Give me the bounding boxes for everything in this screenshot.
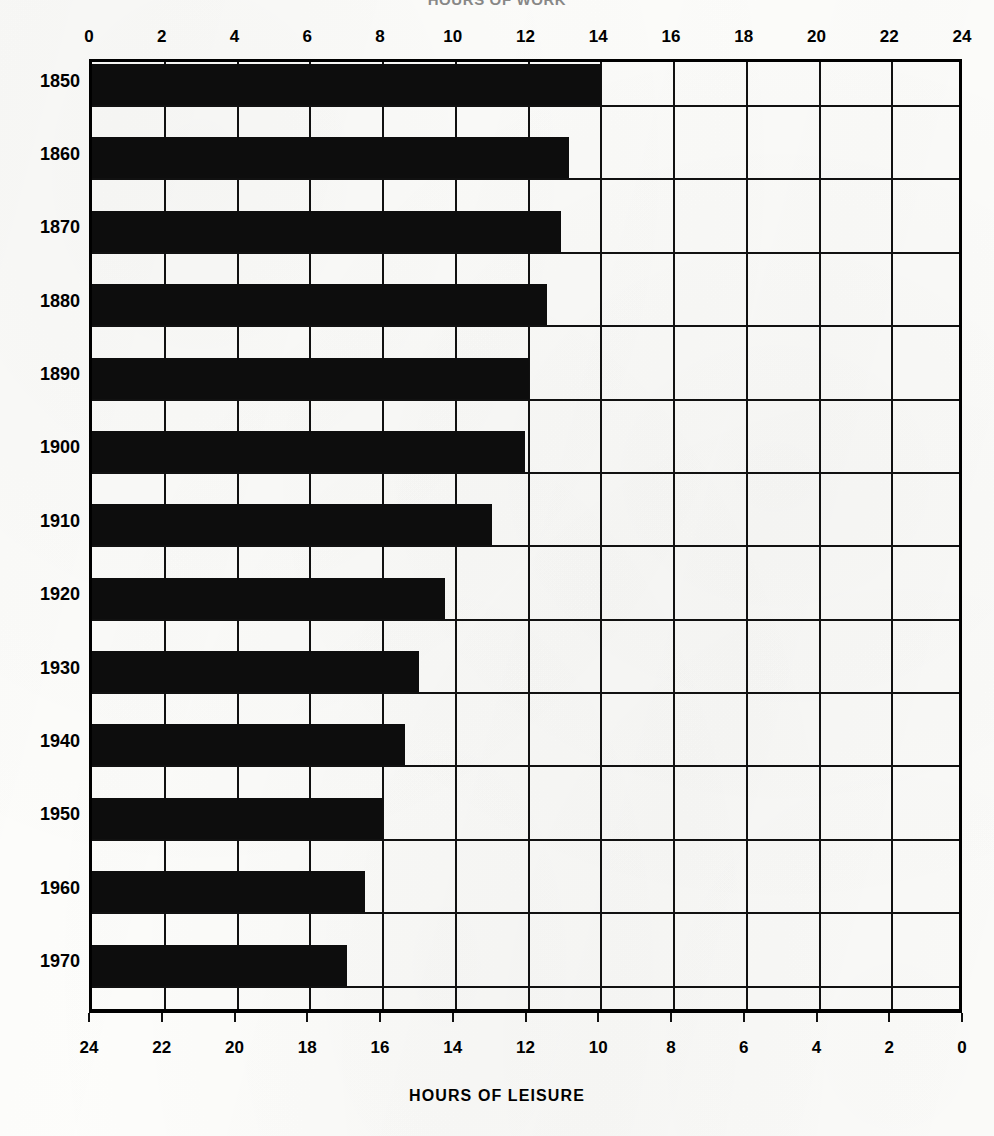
chart-root: HOURS OF WORK HOURS OF LEISURE 185018601… (0, 0, 994, 1136)
year-label-1880: 1880 (2, 291, 80, 312)
bottom-tick-2: 2 (867, 1038, 911, 1058)
bottom-tickmark-0 (961, 1013, 963, 1022)
top-tick-12: 12 (504, 27, 548, 47)
top-tick-6: 6 (285, 27, 329, 47)
bar-1880 (92, 284, 547, 325)
row-separator-1850 (92, 105, 959, 107)
gridline-18 (746, 62, 748, 1009)
gridline-16 (673, 62, 675, 1009)
top-tick-16: 16 (649, 27, 693, 47)
bottom-tickmark-4 (816, 1013, 818, 1022)
bottom-tickmark-12 (525, 1013, 527, 1022)
year-label-1870: 1870 (2, 217, 80, 238)
year-label-1950: 1950 (2, 804, 80, 825)
bottom-tickmark-18 (306, 1013, 308, 1022)
bottom-tick-0: 0 (940, 1038, 984, 1058)
year-label-1960: 1960 (2, 878, 80, 899)
bar-1940 (92, 724, 405, 765)
gridline-14 (600, 62, 602, 1009)
top-tick-18: 18 (722, 27, 766, 47)
year-label-1860: 1860 (2, 144, 80, 165)
year-label-1920: 1920 (2, 584, 80, 605)
bar-1920 (92, 578, 445, 619)
row-separator-1900 (92, 472, 959, 474)
bottom-tickmark-24 (88, 1013, 90, 1022)
bottom-tickmark-14 (452, 1013, 454, 1022)
bottom-tickmark-8 (670, 1013, 672, 1022)
row-separator-1940 (92, 765, 959, 767)
bottom-tick-20: 20 (213, 1038, 257, 1058)
bar-1910 (92, 504, 492, 545)
bar-1870 (92, 211, 561, 252)
year-label-1970: 1970 (2, 951, 80, 972)
gridline-20 (819, 62, 821, 1009)
bar-1930 (92, 651, 419, 692)
top-tick-14: 14 (576, 27, 620, 47)
row-separator-1880 (92, 325, 959, 327)
chart-top-title: HOURS OF WORK (0, 0, 994, 8)
year-label-1890: 1890 (2, 364, 80, 385)
bar-1960 (92, 871, 365, 912)
bar-1970 (92, 945, 347, 986)
row-separator-1910 (92, 545, 959, 547)
bottom-tick-10: 10 (576, 1038, 620, 1058)
row-separator-1950 (92, 839, 959, 841)
bottom-tick-12: 12 (504, 1038, 548, 1058)
bottom-tick-4: 4 (795, 1038, 839, 1058)
top-tick-0: 0 (67, 27, 111, 47)
row-separator-1930 (92, 692, 959, 694)
year-label-1900: 1900 (2, 437, 80, 458)
top-tick-22: 22 (867, 27, 911, 47)
row-separator-1860 (92, 178, 959, 180)
gridline-12 (528, 62, 530, 1009)
bottom-tickmark-10 (597, 1013, 599, 1022)
bottom-tickmark-16 (379, 1013, 381, 1022)
row-separator-1870 (92, 252, 959, 254)
bottom-tick-6: 6 (722, 1038, 766, 1058)
top-tick-24: 24 (940, 27, 984, 47)
year-label-1940: 1940 (2, 731, 80, 752)
top-tick-20: 20 (795, 27, 839, 47)
bar-1850 (92, 64, 601, 105)
bar-1950 (92, 798, 383, 839)
bottom-tickmark-2 (888, 1013, 890, 1022)
bottom-tick-24: 24 (67, 1038, 111, 1058)
bar-1860 (92, 137, 569, 178)
bottom-tick-18: 18 (285, 1038, 329, 1058)
year-label-1850: 1850 (2, 71, 80, 92)
top-tick-4: 4 (213, 27, 257, 47)
row-separator-1970 (92, 986, 959, 988)
bottom-tickmark-22 (161, 1013, 163, 1022)
bottom-tickmark-20 (234, 1013, 236, 1022)
year-label-1910: 1910 (2, 511, 80, 532)
bottom-tick-16: 16 (358, 1038, 402, 1058)
bottom-tickmark-6 (743, 1013, 745, 1022)
plot-area (89, 59, 962, 1013)
year-label-1930: 1930 (2, 658, 80, 679)
bottom-tick-8: 8 (649, 1038, 693, 1058)
row-separator-1920 (92, 619, 959, 621)
row-separator-1960 (92, 912, 959, 914)
row-separator-1890 (92, 399, 959, 401)
chart-bottom-title: HOURS OF LEISURE (0, 1087, 994, 1105)
bottom-tick-14: 14 (431, 1038, 475, 1058)
bar-1890 (92, 358, 529, 399)
top-tick-8: 8 (358, 27, 402, 47)
top-tick-2: 2 (140, 27, 184, 47)
gridline-22 (891, 62, 893, 1009)
bar-1900 (92, 431, 525, 472)
bottom-tick-22: 22 (140, 1038, 184, 1058)
top-tick-10: 10 (431, 27, 475, 47)
